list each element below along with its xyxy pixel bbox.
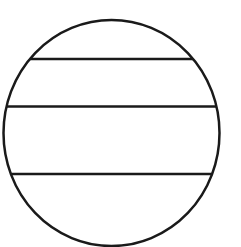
outer-circle: [4, 20, 220, 246]
circle-with-chords-diagram: [0, 0, 241, 247]
